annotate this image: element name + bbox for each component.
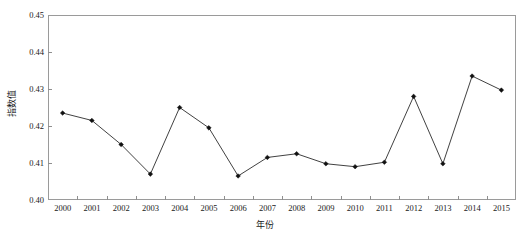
y-tick-label: 0.45 — [0, 11, 44, 20]
x-tick-mark — [341, 196, 342, 200]
y-tick-mark — [48, 163, 52, 164]
plot-area — [48, 15, 516, 200]
x-tick-mark — [428, 196, 429, 200]
x-tick-mark — [399, 196, 400, 200]
y-tick-label: 0.41 — [0, 159, 44, 168]
x-tick-mark — [224, 196, 225, 200]
x-tick-mark — [282, 196, 283, 200]
y-tick-label: 0.44 — [0, 48, 44, 57]
x-tick-label: 2015 — [481, 204, 521, 213]
x-tick-mark — [77, 196, 78, 200]
x-tick-mark — [107, 196, 108, 200]
y-tick-mark — [48, 89, 52, 90]
x-tick-mark — [458, 196, 459, 200]
x-tick-mark — [253, 196, 254, 200]
x-tick-mark — [165, 196, 166, 200]
x-tick-mark — [194, 196, 195, 200]
y-axis-title: 指数值 — [5, 74, 18, 134]
y-tick-mark — [48, 52, 52, 53]
line-chart: 0.450.440.430.420.410.40 指数值 20002001200… — [0, 0, 529, 241]
x-axis-title: 年份 — [0, 218, 529, 231]
y-tick-mark — [48, 126, 52, 127]
x-tick-mark — [311, 196, 312, 200]
x-tick-mark — [370, 196, 371, 200]
x-tick-mark — [136, 196, 137, 200]
y-tick-label: 0.40 — [0, 196, 44, 205]
x-tick-mark — [487, 196, 488, 200]
